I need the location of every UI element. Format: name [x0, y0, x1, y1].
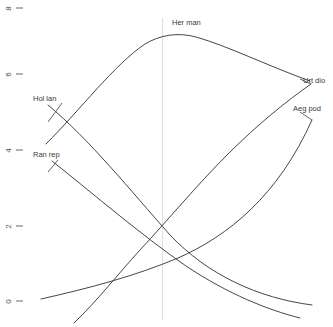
y-tick-label-4: 4 [4, 144, 13, 158]
leader-line-hol-lan [48, 103, 62, 122]
series-label-aeg-pod: Aeg pod [293, 104, 321, 113]
series-line-her-man [46, 35, 310, 144]
series-line-urt-dio [74, 84, 311, 323]
y-tick-label-0: 0 [4, 295, 13, 309]
plot-area [0, 0, 333, 327]
series-label-ran-rep: Ran rep [33, 150, 60, 159]
y-tick-label-2: 2 [4, 220, 13, 234]
series-label-urt-dio: Urt dio [303, 76, 325, 85]
series-label-hol-lan: Hol lan [33, 94, 56, 103]
leader-line-aeg-pod [300, 112, 312, 120]
line-chart: 8 6 4 2 0 Her man Urt dio Aeg pod Hol la… [0, 0, 333, 327]
y-tick-label-8: 8 [4, 2, 13, 16]
y-tick-label-6: 6 [4, 68, 13, 82]
series-label-her-man: Her man [172, 18, 201, 27]
y-tick-marks [16, 8, 23, 301]
label-leader-lines [48, 79, 312, 172]
series-line-ran-rep [52, 161, 300, 318]
